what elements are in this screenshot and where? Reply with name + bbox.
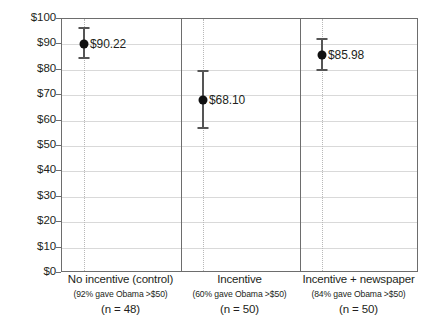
gridline [62, 197, 417, 198]
category-title: Incentive [192, 273, 286, 287]
gridline [62, 248, 417, 249]
data-point-label: $90.22 [90, 38, 126, 50]
category-label-group: Incentive(60% gave Obama >$50)(n = 50) [192, 273, 286, 316]
data-point [318, 50, 327, 59]
y-axis-tick-mark [56, 221, 61, 222]
category-sublabel: (92% gave Obama >$50) [68, 289, 173, 300]
data-point-label: $85.98 [328, 49, 364, 61]
y-axis-tick-mark [56, 247, 61, 248]
category-guide-line [203, 19, 205, 271]
y-axis-tick-mark [56, 120, 61, 121]
panel-divider [181, 19, 182, 271]
category-title: No incentive (control) [68, 273, 173, 287]
y-axis: $0$10$20$30$40$50$60$70$80$90$100 [0, 0, 56, 334]
y-axis-tick-label: $60 [4, 114, 56, 126]
gridline [62, 70, 417, 71]
point-estimate-chart: $0$10$20$30$40$50$60$70$80$90$100 $90.22… [0, 0, 431, 334]
y-axis-tick-label: $30 [4, 190, 56, 202]
data-point [80, 39, 89, 48]
y-axis-tick-label: $50 [4, 139, 56, 151]
y-axis-tick-label: $90 [4, 37, 56, 49]
y-axis-tick-mark [56, 196, 61, 197]
data-point-label: $68.10 [209, 94, 245, 106]
error-bar-cap-upper [317, 38, 328, 40]
y-axis-tick-label: $0 [4, 266, 56, 278]
error-bar-cap-lower [198, 127, 209, 129]
error-bar-cap-lower [79, 57, 90, 59]
y-axis-tick-label: $70 [4, 88, 56, 100]
y-axis-tick-mark [56, 69, 61, 70]
data-point [199, 96, 208, 105]
y-axis-tick-label: $10 [4, 241, 56, 253]
category-sublabel: (60% gave Obama >$50) [192, 289, 286, 300]
x-axis-category-labels: No incentive (control)(92% gave Obama >$… [61, 273, 418, 334]
gridline [62, 146, 417, 147]
error-bar-cap-upper [79, 27, 90, 29]
y-axis-tick-mark [56, 145, 61, 146]
category-label-group: Incentive + newspaper(84% gave Obama >$5… [302, 273, 414, 316]
category-sample-size: (n = 50) [302, 303, 414, 317]
y-axis-tick-label: $80 [4, 63, 56, 75]
gridline [62, 222, 417, 223]
y-axis-tick-mark [56, 272, 61, 273]
category-sample-size: (n = 48) [68, 303, 173, 317]
gridline [62, 121, 417, 122]
y-axis-tick-mark [56, 94, 61, 95]
y-axis-tick-label: $20 [4, 215, 56, 227]
category-sample-size: (n = 50) [192, 303, 286, 317]
category-label-group: No incentive (control)(92% gave Obama >$… [68, 273, 173, 316]
y-axis-tick-mark [56, 18, 61, 19]
category-sublabel: (84% gave Obama >$50) [302, 289, 414, 300]
y-axis-tick-label: $40 [4, 164, 56, 176]
error-bar-cap-upper [198, 70, 209, 72]
y-axis-tick-mark [56, 170, 61, 171]
category-title: Incentive + newspaper [302, 273, 414, 287]
y-axis-tick-label: $100 [4, 12, 56, 24]
error-bar-cap-lower [317, 69, 328, 71]
gridline [62, 171, 417, 172]
plot-area: $90.22$68.10$85.98 [61, 18, 418, 272]
panel-divider [300, 19, 301, 271]
y-axis-tick-mark [56, 43, 61, 44]
